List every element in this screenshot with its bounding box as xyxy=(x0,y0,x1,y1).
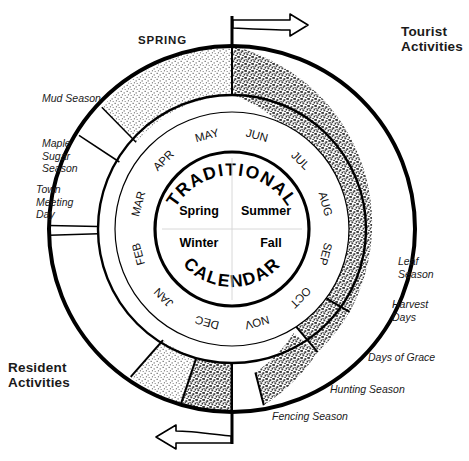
counterclockwise-arrow-left xyxy=(156,425,231,449)
maple-sugar-season-label: Maple Sugar Season xyxy=(42,137,78,175)
harvest-days-label: Harvest Days xyxy=(392,298,428,323)
days-of-grace-label: Days of Grace xyxy=(368,351,435,364)
hunting-season-label: Hunting Season xyxy=(330,383,405,396)
quadrant-winter: Winter xyxy=(180,236,219,250)
resident-activities-label: Resident Activities xyxy=(8,360,70,390)
town-meeting-day-label: Town Meeting Day xyxy=(36,183,73,221)
spring-marker-label: SPRING xyxy=(138,34,187,46)
tourist-activities-label: Tourist Activities xyxy=(401,24,463,54)
quadrant-summer: Summer xyxy=(241,204,291,218)
mud-season-label: Mud Season xyxy=(42,92,101,105)
leaf-season-label: Leaf Season xyxy=(398,255,434,280)
quadrant-fall: Fall xyxy=(260,236,282,250)
clockwise-arrow-right xyxy=(233,14,308,36)
quadrant-spring: Spring xyxy=(179,204,219,218)
fencing-season-label: Fencing Season xyxy=(272,410,348,423)
